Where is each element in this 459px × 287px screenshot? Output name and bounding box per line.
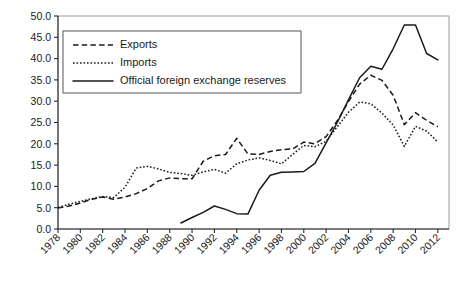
line-chart: 0.05.010.015.020.025.030.035.040.045.050… <box>0 0 459 287</box>
legend-label: Imports <box>120 56 157 68</box>
y-tick-label: 5.0 <box>36 202 51 214</box>
y-tick-label: 15.0 <box>31 159 52 171</box>
y-tick-label: 45.0 <box>31 31 52 43</box>
x-tick-label: 2002 <box>306 231 331 256</box>
x-tick-label: 2012 <box>417 231 442 256</box>
x-tick-label: 1992 <box>194 231 219 256</box>
x-tick-label: 2006 <box>350 231 375 256</box>
series-line-dotted <box>58 102 438 207</box>
y-axis-ticks: 0.05.010.015.020.025.030.035.040.045.050… <box>31 10 58 235</box>
x-tick-label: 1984 <box>104 231 129 256</box>
y-tick-label: 50.0 <box>31 10 52 22</box>
x-tick-label: 2004 <box>328 231 353 256</box>
x-tick-label: 2010 <box>395 231 420 256</box>
y-tick-label: 20.0 <box>31 138 52 150</box>
x-tick-label: 1998 <box>261 231 286 256</box>
y-tick-label: 35.0 <box>31 74 52 86</box>
legend-label: Official foreign exchange reserves <box>120 74 287 86</box>
y-tick-label: 0.0 <box>36 223 51 235</box>
chart-legend: ExportsImportsOfficial foreign exchange … <box>63 31 301 93</box>
series-line-dashed <box>58 75 438 208</box>
x-tick-label: 1988 <box>149 231 174 256</box>
x-tick-label: 1980 <box>60 231 85 256</box>
x-tick-label: 2008 <box>373 231 398 256</box>
legend-label: Exports <box>120 38 158 50</box>
y-tick-label: 40.0 <box>31 52 52 64</box>
y-tick-label: 10.0 <box>31 180 52 192</box>
x-tick-label: 1994 <box>216 231 241 256</box>
x-tick-label: 1990 <box>171 231 196 256</box>
x-tick-label: 2000 <box>283 231 308 256</box>
y-tick-label: 25.0 <box>31 116 52 128</box>
chart-container: 0.05.010.015.020.025.030.035.040.045.050… <box>0 0 459 287</box>
x-axis-ticks: 1978198019821984198619881990199219941996… <box>37 229 442 256</box>
x-tick-label: 1986 <box>127 231 152 256</box>
y-tick-label: 30.0 <box>31 95 52 107</box>
x-tick-label: 1982 <box>82 231 107 256</box>
x-tick-label: 1996 <box>238 231 263 256</box>
